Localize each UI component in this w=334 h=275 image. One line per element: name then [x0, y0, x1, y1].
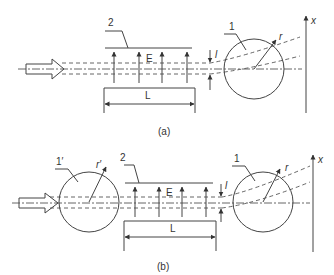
panel-a: 2 E L l r 1 x (a): [18, 15, 317, 137]
plate-label: 2: [108, 17, 114, 28]
panel-a-caption: (a): [158, 126, 170, 137]
lens-label: 1′: [56, 156, 64, 167]
offset-label: l: [215, 49, 218, 60]
deflected-beam-lower: [222, 182, 310, 208]
plate-leader: [105, 31, 128, 48]
deflected-beam-lower: [210, 56, 300, 74]
beam-input-arrow-icon: [26, 59, 64, 79]
field-label: E: [146, 53, 153, 64]
deflector-label: 1: [234, 153, 240, 164]
radius-arrow: [263, 169, 280, 202]
screen-axis-label: x: [317, 154, 324, 165]
length-label: L: [145, 90, 151, 101]
plate-label: 2: [120, 152, 126, 163]
field-label: E: [166, 187, 173, 198]
deflector-label: 1: [229, 21, 235, 32]
lens-radius-label: r′: [96, 159, 102, 170]
panel-b: r′ 1′ 2 E L l r 1 x (b): [12, 152, 324, 272]
offset-label: l: [225, 180, 228, 191]
length-label: L: [170, 223, 176, 234]
deflector-leader: [224, 34, 246, 50]
screen-axis-label: x: [310, 15, 317, 26]
beam-input-arrow-icon: [19, 193, 58, 213]
deflected-beam-upper: [222, 166, 310, 197]
plate-leader: [124, 165, 139, 183]
beam-deflection-diagram: 2 E L l r 1 x (a) r′: [0, 0, 334, 275]
radius-label: r: [285, 162, 289, 173]
panel-b-caption: (b): [157, 261, 169, 272]
radius-label: r: [279, 31, 283, 42]
